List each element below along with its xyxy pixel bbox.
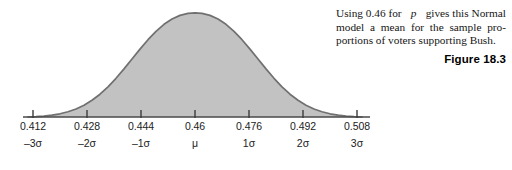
normal-curve-fill: [28, 13, 362, 117]
axis-tick-label-2: 0.444 –1σ: [111, 121, 171, 148]
tick-value: 0.492: [273, 121, 333, 132]
tick-value: 0.428: [57, 121, 117, 132]
tick-value: 0.412: [3, 121, 63, 132]
caption-text: model: [336, 21, 364, 35]
tick-sigma-label: –3σ: [3, 138, 63, 149]
caption-text: mean: [381, 21, 405, 35]
normal-distribution-plot: 0.412 –3σ 0.428 –2σ 0.444 –1σ 0.46 μ 0.4…: [0, 0, 380, 170]
figure-caption: Using 0.46 for p gives this Normal model…: [336, 7, 506, 65]
caption-text: for: [411, 21, 424, 35]
caption-text: the: [430, 21, 444, 35]
axis-tick-label-1: 0.428 –2σ: [57, 121, 117, 148]
caption-line-1: Using 0.46 for p gives this Normal: [336, 7, 506, 21]
tick-sigma-label: 1σ: [219, 138, 279, 149]
caption-line-2: model a mean for the sample pro-: [336, 21, 506, 35]
axis-tick-label-3: 0.46 μ: [165, 121, 225, 148]
axis-tick-label-4: 0.476 1σ: [219, 121, 279, 148]
tick-sigma-label: –1σ: [111, 138, 171, 149]
caption-variable-p: p: [411, 7, 417, 21]
tick-sigma-label: 2σ: [273, 138, 333, 149]
tick-sigma-label: μ: [165, 138, 225, 149]
caption-text: gives this Normal: [426, 7, 506, 21]
axis-tick-label-0: 0.412 –3σ: [3, 121, 63, 148]
tick-sigma-label: 3σ: [327, 138, 387, 149]
caption-text: a: [370, 21, 375, 35]
tick-value: 0.476: [219, 121, 279, 132]
tick-value: 0.444: [111, 121, 171, 132]
figure-number-label: Figure 18.3: [336, 53, 506, 65]
tick-value: 0.508: [327, 121, 387, 132]
tick-sigma-label: –2σ: [57, 138, 117, 149]
caption-line-3: portions of voters supporting Bush.: [336, 34, 506, 48]
caption-text: pro-: [487, 21, 506, 35]
tick-value: 0.46: [165, 121, 225, 132]
figure-container: 0.412 –3σ 0.428 –2σ 0.444 –1σ 0.46 μ 0.4…: [0, 0, 512, 170]
caption-text: Using 0.46 for: [336, 7, 402, 21]
axis-tick-label-5: 0.492 2σ: [273, 121, 333, 148]
caption-text: sample: [449, 21, 481, 35]
axis-tick-label-6: 0.508 3σ: [327, 121, 387, 148]
